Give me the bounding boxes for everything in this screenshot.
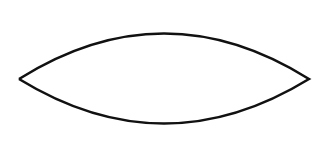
lens-shape-svg [0,0,324,168]
diagram-canvas [0,0,324,168]
canvas-background [0,0,324,168]
